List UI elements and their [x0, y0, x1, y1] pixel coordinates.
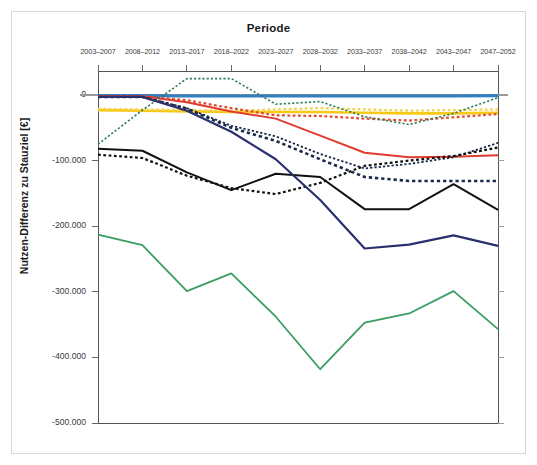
series-line-yellow-dashed — [98, 108, 498, 111]
data-series-group — [98, 79, 498, 370]
series-line-green-solid — [98, 235, 498, 369]
plot-area — [0, 0, 537, 465]
series-line-black-dashed — [98, 147, 498, 194]
series-line-red-solid — [98, 96, 498, 157]
axes-lines — [80, 65, 508, 423]
chart-figure: Periode Nutzen-Differenz zu Stauziel [€]… — [0, 0, 537, 465]
series-line-darkblue-solid — [98, 97, 498, 249]
